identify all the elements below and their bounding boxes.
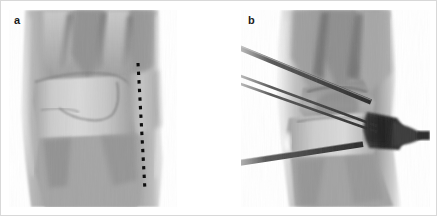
radiograph-render-a: [9, 10, 177, 207]
radiograph-render-b: [241, 10, 430, 207]
panel-b[interactable]: [241, 10, 430, 207]
panel-a[interactable]: [9, 10, 177, 207]
radiograph-image-a: [9, 10, 177, 207]
panel-label-a: a: [14, 15, 20, 26]
radiograph-image-b: [241, 10, 430, 207]
radiograph-figure: a: [0, 0, 437, 216]
panel-label-b: b: [248, 15, 255, 26]
